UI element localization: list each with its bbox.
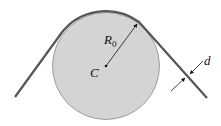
thickness-label: d (204, 53, 211, 68)
center-label: C (90, 65, 99, 80)
thickness-arrow-lower (171, 78, 185, 91)
belt-over-cylinder-diagram: R0 C d (0, 0, 221, 126)
thickness-arrow-upper (190, 61, 203, 74)
center-dot (105, 65, 108, 68)
